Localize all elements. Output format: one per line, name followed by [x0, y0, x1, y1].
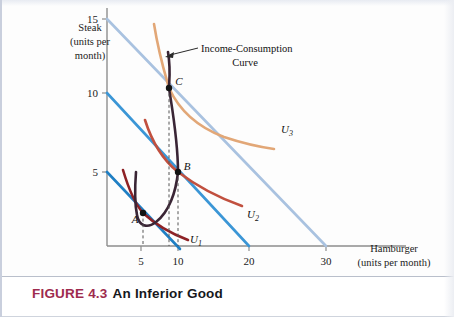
point-b-marker [175, 169, 181, 175]
x-tick-label-30: 30 [321, 255, 333, 267]
y-tick-label-10: 10 [87, 87, 99, 99]
point-c-label: C [175, 75, 183, 87]
point-a-marker [140, 210, 146, 216]
y-axis-title-line2: (units per [70, 36, 110, 48]
figure-page: 15 10 5 5 10 20 30 Steak (units per mont… [0, 0, 454, 317]
y-axis-title-line3: month) [75, 50, 106, 62]
curve-label-u2-sub: 2 [255, 214, 259, 223]
curve-label-u3-sub: 3 [288, 129, 293, 138]
annotation-line [170, 48, 198, 55]
arrow-head-icon [165, 52, 174, 58]
curve-label-u1-sub: 1 [198, 239, 202, 248]
figure-caption: FIGURE 4.3An Inferior Good [32, 286, 223, 301]
point-a-label: A [131, 213, 139, 225]
figure-caption-bar: FIGURE 4.3An Inferior Good [2, 276, 454, 317]
point-b-label: B [184, 160, 191, 172]
curve-label-u2: U 2 [247, 208, 259, 223]
indifference-curve-u2 [145, 120, 242, 206]
annotation-leader-line [165, 48, 198, 58]
x-tick-label-10: 10 [173, 255, 185, 267]
chart-plot-area: 15 10 5 5 10 20 30 Steak (units per mont… [2, 0, 454, 280]
curve-label-u3: U 3 [281, 123, 293, 138]
x-tick-label-5: 5 [138, 255, 144, 267]
figure-title: An Inferior Good [113, 286, 223, 301]
x-axis-title-line2: (units per month) [358, 257, 431, 269]
annotation-line2: Curve [232, 57, 258, 68]
x-tick-label-20: 20 [244, 255, 256, 267]
income-consumption-curve [135, 52, 178, 226]
y-tick-label-5: 5 [93, 166, 99, 178]
annotation-line1: Income-Consumption [201, 43, 293, 54]
point-c-marker [166, 85, 172, 91]
x-axis-title-line1: Hamburger [370, 243, 418, 254]
figure-number: FIGURE 4.3 [32, 286, 108, 301]
y-axis-title: Steak (units per month) [70, 22, 110, 62]
y-axis-title-line1: Steak [78, 22, 102, 33]
x-axis-title: Hamburger (units per month) [358, 243, 431, 269]
